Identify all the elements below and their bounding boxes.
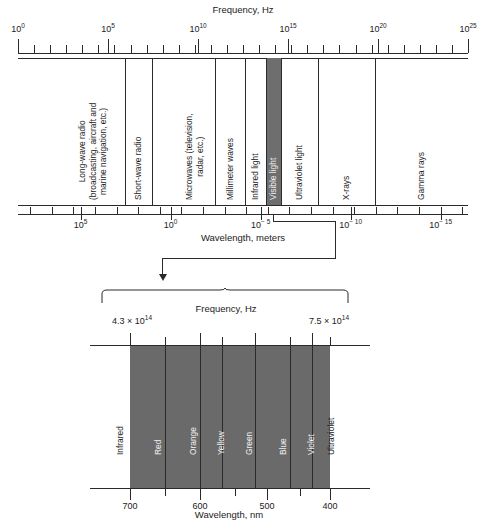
wavelength-minor-tick bbox=[30, 207, 31, 215]
wavelength-minor-tick bbox=[117, 207, 118, 215]
detail-wavelength-axis-title: Wavelength, nm bbox=[195, 509, 263, 520]
top-wavelength-axis-title: Wavelength, meters bbox=[201, 232, 285, 243]
frequency-minor-tick bbox=[34, 45, 35, 53]
detail-top-tick bbox=[200, 333, 201, 345]
color-divider bbox=[312, 346, 313, 488]
frequency-tick-label: 1010 bbox=[189, 24, 206, 34]
frequency-major-tick bbox=[468, 39, 469, 53]
band-divider bbox=[281, 58, 282, 205]
color-label: Infrared bbox=[115, 426, 126, 455]
frequency-minor-tick bbox=[82, 45, 83, 53]
detail-top-tick bbox=[130, 333, 131, 345]
detail-frequency-left-label: 4.3 × 1014 bbox=[112, 316, 152, 326]
color-label: Orange bbox=[188, 427, 199, 455]
wavelength-tick-label: 10− 15 bbox=[429, 220, 452, 230]
band-label: X-rays bbox=[341, 176, 352, 200]
detail-wavelength-major-tick bbox=[267, 489, 268, 500]
frequency-minor-tick bbox=[275, 45, 276, 53]
detail-wavelength-minor-tick bbox=[165, 489, 166, 496]
color-label: Ultraviolet bbox=[326, 418, 337, 455]
wavelength-tick-label: 105 bbox=[74, 220, 88, 230]
band-frame-bottom-rule bbox=[18, 205, 468, 206]
top-wavelength-axis-rule bbox=[18, 214, 468, 215]
leader-arrowhead bbox=[159, 274, 167, 281]
detail-wavelength-minor-tick bbox=[300, 489, 301, 496]
color-divider bbox=[165, 346, 166, 488]
wavelength-minor-tick bbox=[246, 207, 247, 215]
detail-top-tick bbox=[312, 333, 313, 345]
frequency-minor-tick bbox=[131, 45, 132, 53]
frequency-minor-tick bbox=[372, 45, 373, 53]
frequency-minor-tick bbox=[452, 45, 453, 53]
detail-wavelength-major-tick bbox=[330, 489, 331, 500]
detail-wavelength-major-tick bbox=[200, 489, 201, 500]
wavelength-minor-tick bbox=[52, 207, 53, 215]
band-frame-top-rule bbox=[18, 58, 468, 59]
band-divider bbox=[375, 58, 376, 205]
band-label: Microwaves (television, radar, etc.) bbox=[184, 113, 205, 200]
band-divider bbox=[152, 58, 153, 205]
wavelength-minor-tick bbox=[397, 207, 398, 215]
frequency-minor-tick bbox=[356, 45, 357, 53]
band-divider bbox=[245, 58, 246, 205]
frequency-tick-label: 1025 bbox=[459, 24, 476, 34]
detail-frequency-axis-title: Frequency, Hz bbox=[195, 303, 256, 314]
color-label: Violet bbox=[306, 434, 317, 455]
color-divider bbox=[200, 346, 201, 488]
detail-wavelength-tick-label: 400 bbox=[322, 501, 337, 511]
wavelength-minor-tick bbox=[160, 207, 161, 215]
top-frequency-axis-title: Frequency, Hz bbox=[212, 4, 273, 15]
frequency-tick-label: 1015 bbox=[279, 24, 296, 34]
band-divider bbox=[266, 58, 267, 205]
detail-brace bbox=[100, 288, 350, 304]
color-divider bbox=[222, 346, 223, 488]
wavelength-minor-tick bbox=[203, 207, 204, 215]
wavelength-minor-tick bbox=[268, 207, 269, 215]
detail-frequency-right-label: 7.5 × 1014 bbox=[309, 316, 349, 326]
frequency-minor-tick bbox=[436, 45, 437, 53]
detail-top-tick bbox=[255, 333, 256, 345]
detail-wavelength-tick-label: 700 bbox=[122, 501, 137, 511]
detail-top-tick bbox=[290, 337, 291, 345]
frequency-major-tick bbox=[288, 39, 289, 53]
wavelength-minor-tick bbox=[138, 207, 139, 215]
wavelength-minor-tick bbox=[419, 207, 420, 215]
wavelength-minor-tick bbox=[181, 207, 182, 215]
wavelength-tick-label: 10− 10 bbox=[339, 220, 362, 230]
frequency-major-tick bbox=[198, 39, 199, 53]
frequency-minor-tick bbox=[114, 45, 115, 53]
wavelength-minor-tick bbox=[225, 207, 226, 215]
detail-wavelength-major-tick bbox=[130, 489, 131, 500]
wavelength-minor-tick bbox=[289, 207, 290, 215]
detail-top-tick bbox=[222, 337, 223, 345]
band-label: Visible light bbox=[268, 158, 279, 200]
wavelength-minor-tick bbox=[376, 207, 377, 215]
frequency-minor-tick bbox=[163, 45, 164, 53]
wavelength-minor-tick bbox=[95, 207, 96, 215]
frequency-minor-tick bbox=[147, 45, 148, 53]
frequency-minor-tick bbox=[420, 45, 421, 53]
detail-wavelength-minor-tick bbox=[235, 489, 236, 496]
frequency-minor-tick bbox=[227, 45, 228, 53]
frequency-minor-tick bbox=[388, 45, 389, 53]
color-divider bbox=[255, 346, 256, 488]
frequency-minor-tick bbox=[323, 45, 324, 53]
frequency-tick-label: 105 bbox=[101, 24, 115, 34]
frequency-major-tick bbox=[378, 39, 379, 53]
band-label: Ultraviolet light bbox=[294, 145, 305, 200]
frequency-minor-tick bbox=[243, 45, 244, 53]
spectrum-figure: Frequency, Hz 1001051010101510201025 Lon… bbox=[0, 0, 487, 526]
frequency-minor-tick bbox=[404, 45, 405, 53]
visible-color-band bbox=[130, 346, 330, 488]
wavelength-minor-tick bbox=[462, 207, 463, 215]
band-label: Millimeter waves bbox=[225, 138, 236, 200]
wavelength-major-tick bbox=[81, 207, 82, 220]
frequency-minor-tick bbox=[195, 45, 196, 53]
band-label: Gamma rays bbox=[416, 152, 427, 200]
frequency-minor-tick bbox=[291, 45, 292, 53]
band-label: Short-wave radio bbox=[133, 137, 144, 200]
frequency-minor-tick bbox=[98, 45, 99, 53]
frequency-minor-tick bbox=[66, 45, 67, 53]
frequency-minor-tick bbox=[307, 45, 308, 53]
detail-wavelength-axis-rule bbox=[90, 488, 370, 489]
